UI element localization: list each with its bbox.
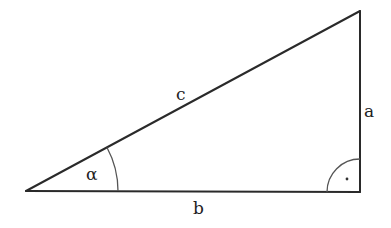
label-alpha: α xyxy=(86,164,98,184)
right-triangle-diagram: c a b α xyxy=(0,0,391,228)
angle-alpha-arc xyxy=(107,148,118,192)
label-c: c xyxy=(176,84,186,104)
right-angle-dot xyxy=(346,178,349,181)
side-b-adjacent xyxy=(26,191,360,192)
label-a: a xyxy=(364,101,374,121)
side-c-hypotenuse xyxy=(26,11,360,191)
right-angle-arc xyxy=(327,159,360,192)
label-b: b xyxy=(193,198,204,218)
